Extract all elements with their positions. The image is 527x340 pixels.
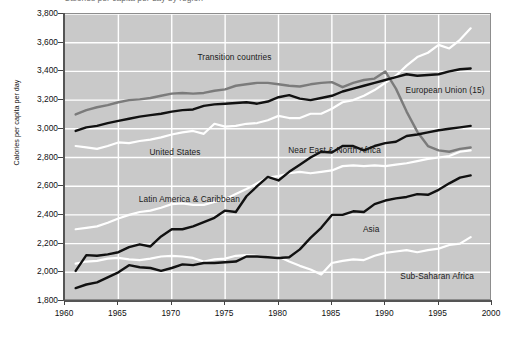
series-label: Latin America & Caribbean bbox=[139, 194, 240, 204]
x-tick-mark bbox=[278, 301, 279, 305]
x-tick-label: 1985 bbox=[322, 308, 341, 318]
x-tick-mark bbox=[171, 301, 172, 305]
x-tick-mark bbox=[331, 301, 332, 305]
series-label: Near East & North Africa bbox=[288, 145, 381, 155]
x-axis-ticks: 196019651970197519801985199019952000 bbox=[0, 0, 527, 340]
x-tick-mark bbox=[491, 301, 492, 305]
x-tick-mark bbox=[384, 301, 385, 305]
series-label: United States bbox=[149, 147, 200, 157]
series-label: Sub-Saharan Africa bbox=[400, 271, 474, 281]
x-tick-label: 1990 bbox=[375, 308, 394, 318]
x-tick-label: 1995 bbox=[428, 308, 447, 318]
x-tick-mark bbox=[64, 301, 65, 305]
series-label: Transition countries bbox=[197, 52, 271, 62]
x-tick-mark bbox=[438, 301, 439, 305]
x-tick-mark bbox=[117, 301, 118, 305]
series-label: European Union (15) bbox=[406, 85, 485, 95]
x-tick-label: 1970 bbox=[161, 308, 180, 318]
x-tick-label: 1980 bbox=[268, 308, 287, 318]
x-tick-label: 1960 bbox=[55, 308, 74, 318]
x-tick-label: 1975 bbox=[215, 308, 234, 318]
x-tick-label: 1965 bbox=[108, 308, 127, 318]
calories-per-capita-chart: Calories per capita per day by region Ca… bbox=[0, 0, 527, 340]
series-label: Asia bbox=[363, 224, 380, 234]
x-tick-mark bbox=[224, 301, 225, 305]
x-tick-label: 2000 bbox=[482, 308, 501, 318]
